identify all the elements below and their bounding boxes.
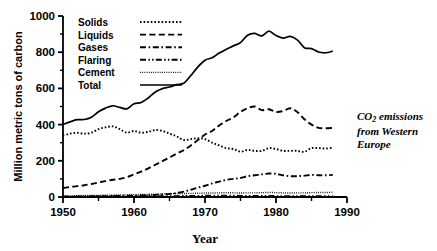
y-tick-label: 0 [49, 191, 55, 203]
x-tick-label: 1990 [334, 206, 360, 218]
legend-label-liquids: Liquids [78, 30, 114, 41]
legend-label-cement: Cement [78, 67, 115, 78]
annotation-subscript: 2 [372, 115, 376, 124]
annotation-line2: from Western [357, 125, 418, 137]
annotation-line3: Europe [357, 138, 391, 150]
x-tick-label: 1980 [263, 206, 289, 218]
legend-label-flaring: Flaring [78, 55, 111, 66]
y-tick-label: 200 [36, 155, 55, 167]
y-tick-label: 600 [36, 82, 55, 94]
x-tick-label: 1970 [192, 206, 218, 218]
y-axis-title: Million metric tons of carbon [12, 31, 24, 182]
chart-annotation: CO2 emissions from Western Europe [357, 110, 435, 152]
x-tick-label: 1960 [121, 206, 147, 218]
legend-label-total: Total [78, 80, 101, 91]
y-tick-label: 1000 [29, 10, 55, 22]
legend-label-solids: Solids [78, 17, 108, 28]
x-tick-label: 1950 [50, 206, 76, 218]
legend-label-gases: Gases [78, 42, 108, 53]
y-tick-label: 800 [36, 46, 55, 58]
annotation-co2: CO2 emissions [357, 110, 423, 122]
chart-figure: 0200400600800100019501960197019801990Sol… [0, 0, 437, 251]
y-tick-label: 400 [36, 119, 55, 131]
x-axis-title: Year [192, 231, 218, 246]
